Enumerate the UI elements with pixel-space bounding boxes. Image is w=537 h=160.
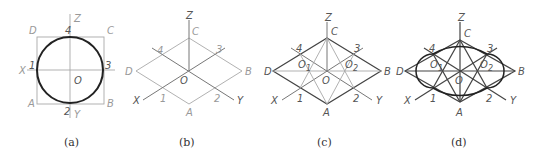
caption-a: (a) (64, 136, 79, 149)
label-3: 3 (105, 60, 111, 71)
label-2: 2 (64, 106, 70, 117)
caption-d: (d) (451, 136, 467, 149)
label-b: B (518, 66, 525, 77)
label-1: 1 (160, 93, 166, 104)
label-1: 1 (29, 60, 35, 71)
label-1: 1 (297, 93, 303, 104)
x-axis (143, 48, 225, 100)
label-x: X (403, 95, 412, 106)
label-3: 3 (216, 44, 222, 55)
label-b: B (384, 66, 391, 77)
label-c: C (107, 25, 114, 36)
panel-a: Z D 4 C X 1 3 O A B 2 Y (a) (18, 13, 115, 149)
label-x: X (270, 95, 279, 106)
label-a: A (455, 107, 463, 118)
x-axis (415, 48, 497, 100)
label-z: Z (185, 10, 194, 21)
label-c: C (331, 26, 338, 37)
label-y: Y (74, 109, 81, 120)
label-d: D (125, 66, 133, 77)
label-4: 4 (157, 45, 163, 56)
label-4: 4 (296, 43, 302, 54)
panel-b: Z C 4 3 D B O X 1 2 Y A (b) (125, 10, 252, 149)
label-1: 1 (430, 93, 436, 104)
label-d: D (264, 66, 272, 77)
label-d: D (29, 25, 37, 36)
label-z: Z (457, 12, 466, 23)
label-x: X (132, 95, 141, 106)
label-o: O (180, 75, 188, 86)
label-o: O (74, 75, 82, 86)
label-x: X (18, 65, 27, 76)
label-3: 3 (354, 43, 360, 54)
label-b: B (107, 98, 114, 109)
panel-c: Z C 4 3 O1 O2 D B O X 1 2 Y A (c) (264, 12, 391, 149)
label-c: C (192, 26, 199, 37)
isometric-ellipse-construction-figure: Z D 4 C X 1 3 O A B 2 Y (a) Z C 4 3 D B … (0, 0, 537, 160)
label-o: O (322, 75, 330, 86)
label-a: A (27, 98, 35, 109)
label-y: Y (376, 95, 383, 106)
label-a: A (185, 107, 193, 118)
label-4: 4 (429, 43, 435, 54)
caption-b: (b) (179, 136, 195, 149)
label-2: 2 (214, 93, 220, 104)
label-b: B (245, 66, 252, 77)
label-d: D (396, 66, 404, 77)
label-o: O (455, 75, 463, 86)
x-axis (282, 48, 363, 100)
label-3: 3 (487, 43, 493, 54)
label-z: Z (324, 12, 333, 23)
label-y: Y (237, 95, 244, 106)
caption-c: (c) (317, 136, 332, 149)
label-c: C (464, 28, 471, 39)
label-4: 4 (65, 25, 71, 36)
label-z: Z (73, 13, 82, 24)
panel-d: Z C 4 3 O1 O2 D B O X 1 2 Y A (d) (396, 12, 525, 149)
label-a: A (322, 107, 330, 118)
label-2: 2 (486, 93, 492, 104)
label-y: Y (510, 95, 517, 106)
label-2: 2 (353, 93, 359, 104)
